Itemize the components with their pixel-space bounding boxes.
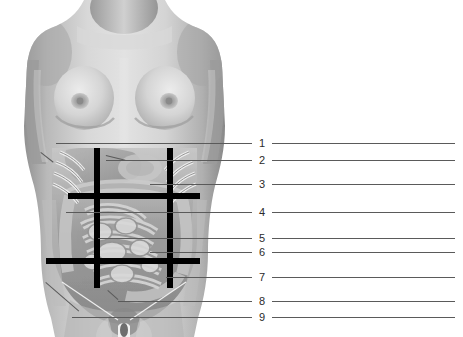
grid-vertical-left bbox=[94, 148, 100, 288]
pointer-line-7 bbox=[166, 277, 252, 278]
pointer-line-9 bbox=[72, 317, 252, 318]
pointer-line-3 bbox=[150, 184, 252, 185]
leader-line-right-9 bbox=[272, 317, 455, 318]
torso-illustration bbox=[22, 0, 227, 337]
leader-line-right-8 bbox=[272, 301, 455, 302]
label-number-4: 4 bbox=[256, 207, 268, 218]
label-number-9: 9 bbox=[256, 312, 268, 323]
label-number-1: 1 bbox=[256, 138, 268, 149]
label-number-3: 3 bbox=[256, 179, 268, 190]
pointer-line-5 bbox=[98, 238, 252, 239]
grid-vertical-right bbox=[167, 148, 173, 288]
label-number-8: 8 bbox=[256, 296, 268, 307]
leader-line-right-1 bbox=[272, 143, 455, 144]
anatomy-figure: 1 2 3 4 5 6 7 8 9 bbox=[0, 0, 463, 337]
leader-line-right-3 bbox=[272, 184, 455, 185]
pointer-line-2 bbox=[106, 160, 252, 161]
pointer-line-6 bbox=[150, 252, 252, 253]
pointer-line-4 bbox=[66, 212, 252, 213]
label-number-2: 2 bbox=[256, 155, 268, 166]
leader-line-right-7 bbox=[272, 277, 455, 278]
leader-line-right-5 bbox=[272, 238, 455, 239]
pointer-line-8 bbox=[118, 301, 252, 302]
torso-photograph bbox=[22, 0, 227, 337]
pointer-line-1b bbox=[56, 143, 252, 144]
label-number-5: 5 bbox=[256, 233, 268, 244]
leader-line-right-4 bbox=[272, 212, 455, 213]
grid-horizontal-lower bbox=[46, 258, 200, 264]
leader-line-right-6 bbox=[272, 252, 455, 253]
leader-line-right-2 bbox=[272, 160, 455, 161]
label-number-7: 7 bbox=[256, 272, 268, 283]
grid-horizontal-upper bbox=[68, 193, 200, 199]
label-number-6: 6 bbox=[256, 247, 268, 258]
